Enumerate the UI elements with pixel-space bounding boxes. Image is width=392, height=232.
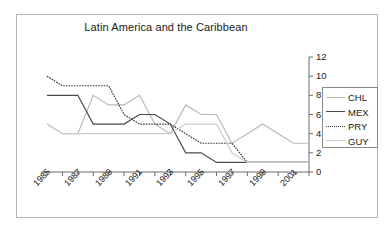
legend-item-chl[interactable]: CHL [326, 90, 378, 105]
y-axis-tick-label: 2 [316, 147, 321, 158]
legend-label: PRY [348, 121, 367, 132]
chart-legend: CHLMEXPRYGUY [322, 87, 378, 148]
series-line-guy [47, 124, 309, 162]
legend-label: CHL [348, 92, 367, 103]
legend-item-mex[interactable]: MEX [326, 105, 378, 120]
y-axis-tick-label: 8 [316, 89, 321, 100]
legend-swatch-pry-icon [326, 122, 345, 132]
legend-item-pry[interactable]: PRY [326, 119, 378, 134]
legend-label: GUY [348, 136, 369, 147]
chart-figure: Latin America and the Caribbean 02468101… [0, 0, 392, 232]
series-line-chl [47, 95, 309, 143]
y-axis-tick-label: 4 [316, 128, 321, 139]
y-axis-tick-label: 10 [316, 70, 327, 81]
legend-label: MEX [348, 107, 369, 118]
legend-swatch-mex-icon [326, 107, 345, 117]
legend-swatch-chl-icon [326, 93, 345, 103]
y-axis-tick-label: 0 [316, 166, 321, 177]
legend-item-guy[interactable]: GUY [326, 134, 378, 149]
y-axis-tick-label: 6 [316, 109, 321, 120]
y-axis-tick-label: 12 [316, 51, 327, 62]
legend-swatch-guy-icon [326, 136, 345, 146]
